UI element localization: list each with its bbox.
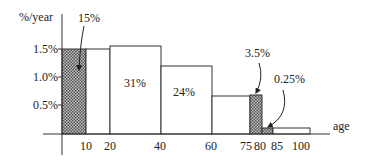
bar-0-10 xyxy=(62,49,86,134)
bar-75-80 xyxy=(250,95,262,134)
bar-85-100 xyxy=(273,128,310,134)
bar-60-75 xyxy=(212,96,250,134)
y-tick-label-1-5: 1.5% xyxy=(33,42,58,56)
bar-80-85 xyxy=(262,128,273,134)
x-tick-label-75: 75 xyxy=(240,139,252,153)
x-tick-label-10: 10 xyxy=(80,139,92,153)
bar-10-20 xyxy=(86,49,110,134)
bar-20-40 xyxy=(110,46,161,134)
annotation-0-25pct: 0.25% xyxy=(274,72,305,86)
histogram-chart: %/year 1.5% 1.0% 0.5% 10 20 40 60 75 80 … xyxy=(0,0,370,166)
annotation-24pct: 24% xyxy=(173,85,195,99)
arrow-0-25pct xyxy=(268,90,285,127)
x-tick-label-60: 60 xyxy=(205,139,217,153)
x-tick-label-100: 100 xyxy=(292,139,310,153)
annotation-31pct: 31% xyxy=(124,76,146,90)
bar-40-60 xyxy=(161,66,212,134)
annotation-15pct: 15% xyxy=(78,11,100,25)
x-tick-label-40: 40 xyxy=(154,139,166,153)
x-tick-label-20: 20 xyxy=(104,139,116,153)
y-tick-label-1-0: 1.0% xyxy=(33,70,58,84)
x-tick-label-85: 85 xyxy=(271,139,283,153)
arrow-3-5pct xyxy=(256,63,261,93)
x-axis-label: age xyxy=(333,119,350,133)
y-tick-label-0-5: 0.5% xyxy=(33,98,58,112)
annotation-3-5pct: 3.5% xyxy=(245,46,270,60)
x-tick-label-80: 80 xyxy=(254,139,266,153)
y-axis-label: %/year xyxy=(19,10,53,24)
